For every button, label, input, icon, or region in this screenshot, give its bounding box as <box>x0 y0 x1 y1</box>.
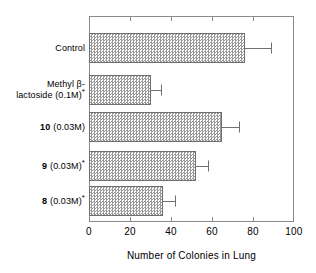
caption-fragment <box>2 266 314 273</box>
x-tick-label-80: 80 <box>233 226 273 238</box>
error-cap-compound-9 <box>208 161 209 172</box>
error-bar-compound-10 <box>222 127 238 128</box>
error-bar-compound-9 <box>196 166 208 167</box>
category-label-compound-9: 9(0.03M)* <box>0 161 85 172</box>
error-bar-compound-8 <box>163 201 175 202</box>
bar-row <box>89 75 294 105</box>
error-cap-compound-8 <box>175 196 176 207</box>
compound-number: 9 <box>42 161 47 171</box>
x-tick-40-bottom <box>171 217 172 222</box>
x-tick-label-20: 20 <box>110 226 150 238</box>
concentration-text: (0.03M) <box>50 196 82 206</box>
bar-row <box>89 112 294 142</box>
concentration-text: (0.03M) <box>53 122 85 132</box>
category-label-line: Methyl β- <box>0 79 85 90</box>
category-label-line: 8(0.03M)* <box>0 196 85 207</box>
x-tick-60-bottom <box>212 217 213 222</box>
category-label-line: 9(0.03M)* <box>0 161 85 172</box>
x-tick-40-top <box>171 16 172 21</box>
error-cap-control <box>271 43 272 54</box>
category-label-line: lactoside (0.1M)* <box>0 90 85 101</box>
compound-number: 8 <box>42 196 47 206</box>
bar-methyl-beta-lactoside <box>89 75 151 105</box>
bar-compound-9 <box>89 151 196 181</box>
category-label-control: Control <box>0 43 85 54</box>
x-tick-80-bottom <box>253 217 254 222</box>
x-tick-20-bottom <box>130 217 131 222</box>
bar-control <box>89 33 245 63</box>
category-label-methyl-beta-lactoside: Methyl β-lactoside (0.1M)* <box>0 79 85 101</box>
x-tick-80-top <box>253 16 254 21</box>
error-cap-methyl-beta-lactoside <box>161 85 162 96</box>
x-axis-title: Number of Colonies in Lung <box>89 250 294 261</box>
bar-row <box>89 186 294 216</box>
significance-asterisk: * <box>82 87 85 96</box>
bar-row <box>89 151 294 181</box>
significance-asterisk: * <box>82 193 85 202</box>
x-tick-label-0: 0 <box>69 226 109 238</box>
significance-asterisk: * <box>82 158 85 167</box>
x-tick-label-100: 100 <box>274 226 314 238</box>
error-cap-compound-10 <box>239 122 240 133</box>
bar-compound-10 <box>89 112 222 142</box>
category-label-line: Control <box>0 43 85 54</box>
error-bar-control <box>245 48 272 49</box>
bar-row <box>89 33 294 63</box>
bar-compound-8 <box>89 186 163 216</box>
label-text: Methyl β- <box>47 79 85 89</box>
x-tick-20-top <box>130 16 131 21</box>
bar-chart-figure: ControlMethyl β-lactoside (0.1M)*10(0.03… <box>0 0 316 273</box>
error-bar-methyl-beta-lactoside <box>151 90 161 91</box>
label-text: lactoside (0.1M) <box>16 90 82 100</box>
category-label-compound-8: 8(0.03M)* <box>0 196 85 207</box>
category-label-line: 10(0.03M) <box>0 122 85 133</box>
x-tick-label-60: 60 <box>192 226 232 238</box>
compound-number: 10 <box>40 122 50 132</box>
x-tick-60-top <box>212 16 213 21</box>
concentration-text: (0.03M) <box>50 161 82 171</box>
label-text: Control <box>55 43 85 53</box>
category-label-compound-10: 10(0.03M) <box>0 122 85 133</box>
x-tick-label-40: 40 <box>151 226 191 238</box>
